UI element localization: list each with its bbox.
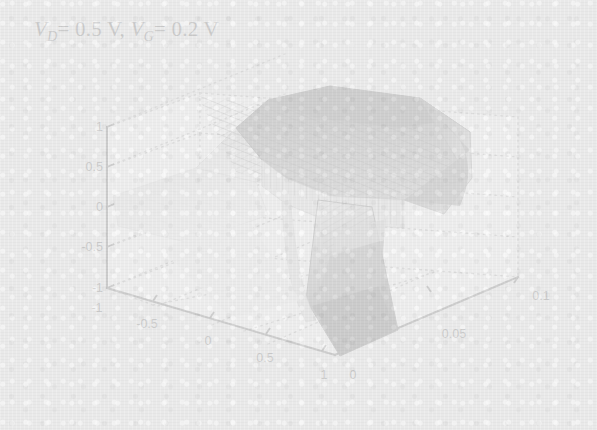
- x-tick-label-0: 0: [205, 334, 212, 348]
- z-tick-label-0.5: 0.5: [86, 160, 103, 174]
- y-tick-label-0.1: 0.1: [532, 289, 549, 303]
- x-tick-label-0.5: 0.5: [256, 351, 273, 365]
- figure-3d-surface-plot: VD= 0.5 V, VG= 0.2 V: [0, 0, 597, 430]
- z-tick-label-neg0.5: -0.5: [81, 240, 103, 254]
- x-tick-label-neg1: -1: [91, 301, 102, 315]
- y-tick-label-0.05: 0.05: [442, 327, 466, 341]
- z-tick-label-neg1: -1: [92, 281, 103, 295]
- x-tick-label-neg0.5: -0.5: [136, 317, 158, 331]
- z-tick-label-0: 0: [96, 200, 103, 214]
- z-tick-label-1: 1: [96, 120, 103, 134]
- plot-canvas: [0, 0, 597, 430]
- x-tick-label-1: 1: [321, 368, 328, 382]
- y-tick-label-0: 0: [350, 368, 357, 382]
